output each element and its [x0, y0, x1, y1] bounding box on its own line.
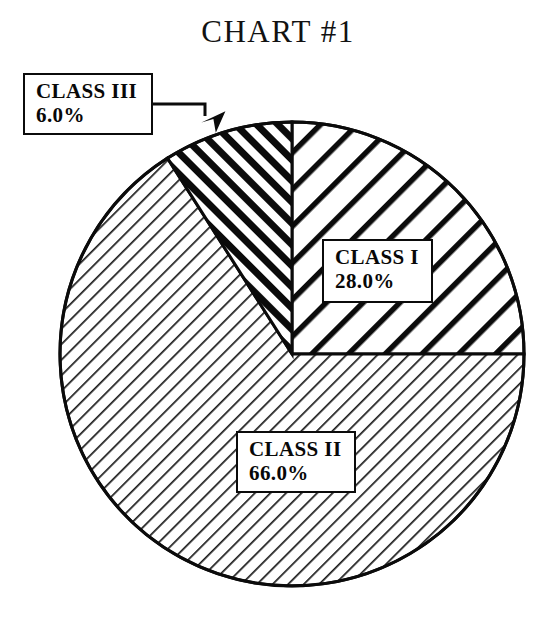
slice-label-class-i-value: 28.0%	[335, 270, 422, 294]
slice-label-class-ii-value: 66.0%	[249, 462, 345, 486]
slice-label-class-iii-value: 6.0%	[36, 104, 142, 128]
slice-label-class-ii-name: CLASS II	[249, 438, 345, 462]
class-iii-leader-line	[153, 104, 205, 116]
pie-chart-figure: CHART #1	[0, 0, 556, 623]
slice-label-class-iii: CLASS III 6.0%	[23, 73, 153, 135]
slice-label-class-ii: CLASS II 66.0%	[236, 431, 356, 493]
pie-slice-class-i	[292, 122, 524, 354]
slice-label-class-i-name: CLASS I	[335, 246, 422, 270]
slice-label-class-i: CLASS I 28.0%	[322, 239, 433, 303]
slice-label-class-iii-name: CLASS III	[36, 80, 142, 104]
